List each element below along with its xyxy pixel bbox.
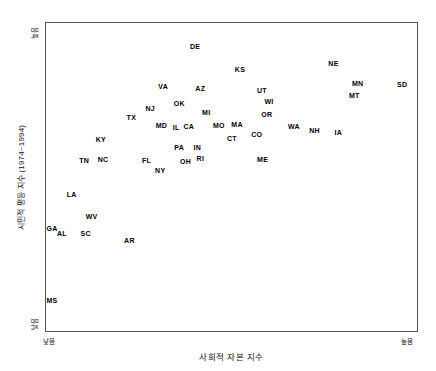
scatter-point-nh: NH <box>309 127 320 134</box>
scatter-point-la: LA <box>67 190 77 197</box>
scatter-point-ct: CT <box>227 135 237 142</box>
scatter-point-sd: SD <box>397 80 407 87</box>
scatter-point-ma: MA <box>231 121 243 128</box>
scatter-point-ok: OK <box>174 100 185 107</box>
plot-area: DENEKSVAAZUTMNSDMTWIOKNJMITXORMDILCAMOMA… <box>45 22 418 332</box>
scatter-point-de: DE <box>190 42 200 49</box>
scatter-point-ks: KS <box>235 65 245 72</box>
y-axis-high-tick-text: 높음 <box>29 25 39 39</box>
scatter-point-va: VA <box>158 83 168 90</box>
scatter-point-me: ME <box>257 156 268 163</box>
scatter-point-ga: GA <box>46 224 57 231</box>
scatter-point-tn: TN <box>79 157 89 164</box>
scatter-point-wi: WI <box>264 97 273 104</box>
scatter-point-ar: AR <box>124 236 135 243</box>
x-axis-high-tick-label: 높음 <box>401 336 413 346</box>
scatter-point-ca: CA <box>183 123 194 130</box>
scatter-point-mt: MT <box>349 92 360 99</box>
y-axis-title-text: 시민적 평등 지수 (1974~1994) <box>16 124 27 229</box>
y-axis-low-tick-text: 낮음 <box>29 316 39 330</box>
scatter-chart-figure: 시민적 평등 지수 (1974~1994) 높음 낮음 DENEKSVAAZUT… <box>0 0 436 371</box>
scatter-point-wv: WV <box>86 212 98 219</box>
x-axis-low-tick-label: 낮음 <box>43 336 55 346</box>
scatter-point-ut: UT <box>257 87 267 94</box>
scatter-point-az: AZ <box>195 84 205 91</box>
scatter-point-pa: PA <box>174 144 184 151</box>
scatter-point-ri: RI <box>197 155 205 162</box>
y-axis-title: 시민적 평등 지수 (1974~1994) <box>14 22 28 332</box>
scatter-point-or: OR <box>261 111 272 118</box>
scatter-point-ia: IA <box>335 129 343 136</box>
scatter-point-mi: MI <box>202 109 210 116</box>
scatter-point-mn: MN <box>352 79 364 86</box>
scatter-point-nj: NJ <box>145 105 155 112</box>
scatter-point-oh: OH <box>180 157 191 164</box>
scatter-point-ny: NY <box>155 166 165 173</box>
scatter-point-sc: SC <box>81 229 91 236</box>
scatter-point-ky: KY <box>96 136 106 143</box>
scatter-point-mo: MO <box>213 122 225 129</box>
scatter-point-ms: MS <box>46 297 57 304</box>
scatter-point-md: MD <box>156 122 168 129</box>
scatter-point-al: AL <box>57 229 67 236</box>
y-axis-low-tick-label: 낮음 <box>27 313 41 331</box>
scatter-point-in: IN <box>194 144 202 151</box>
scatter-point-fl: FL <box>142 157 151 164</box>
scatter-point-co: CO <box>251 131 262 138</box>
y-axis-high-tick-label: 높음 <box>27 22 41 40</box>
scatter-point-wa: WA <box>288 123 300 130</box>
scatter-point-nc: NC <box>98 156 109 163</box>
x-axis-title: 사회적 자본 지수 <box>45 350 418 362</box>
scatter-point-tx: TX <box>127 114 137 121</box>
scatter-point-il: IL <box>173 124 180 131</box>
scatter-point-ne: NE <box>328 59 338 66</box>
